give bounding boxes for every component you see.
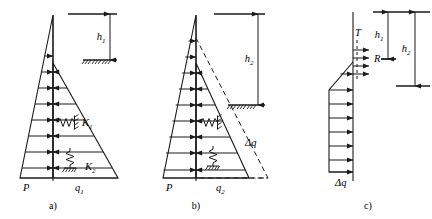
caption-a: a) — [49, 200, 57, 212]
caption-b: b) — [192, 200, 200, 212]
left-load-label-a: P — [22, 182, 30, 193]
figure-container: K1 K2 P q1 — [0, 0, 432, 219]
force-r-label-c: R — [373, 53, 381, 64]
engineering-diagram: K1 K2 P q1 — [0, 0, 432, 219]
caption-c: c) — [364, 200, 372, 212]
left-load-label-b: P — [165, 182, 173, 193]
delta-load-label-c: Δq — [334, 177, 346, 188]
delta-load-label-b: Δq — [244, 137, 256, 148]
